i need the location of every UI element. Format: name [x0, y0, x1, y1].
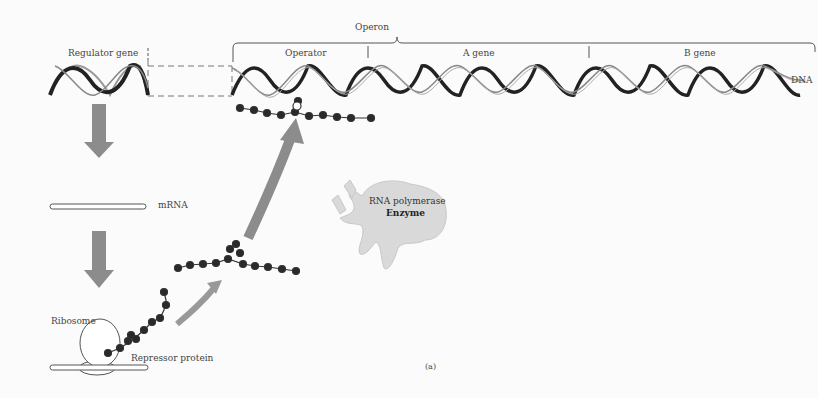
mrna-label: mRNA [158, 200, 188, 210]
dna-gap-dashed [148, 60, 232, 96]
ribosome [50, 319, 148, 375]
dna-helix-operon [232, 66, 806, 98]
rna-polymerase-enzyme [332, 180, 446, 269]
arrowhead-large [280, 118, 304, 144]
operon-label: Operon [355, 22, 389, 32]
mrna-strand [50, 204, 146, 209]
repressor-protein-label: Repressor protein [131, 353, 213, 363]
repressor-bound-operator [237, 98, 375, 122]
panel-label: (a) [425, 362, 436, 371]
operator-label: Operator [285, 48, 326, 58]
dna-label: DNA [791, 75, 813, 85]
arrow-repressor-fold [177, 288, 214, 324]
dna-helix-regulator [50, 64, 148, 100]
arrow-transcription [84, 104, 114, 158]
a-gene-label: A gene [463, 48, 495, 58]
ribosome-label: Ribosome [51, 316, 96, 326]
repressor-protein-folded [175, 241, 300, 275]
arrow-translation [84, 231, 114, 288]
enzyme-label: Enzyme [386, 208, 425, 218]
b-gene-label: B gene [684, 48, 716, 58]
rna-polymerase-label: RNA polymerase [369, 196, 446, 206]
regulator-gene-label: Regulator gene [68, 48, 138, 58]
arrow-repressor-bind [248, 137, 291, 238]
gene-dividers [148, 46, 589, 60]
